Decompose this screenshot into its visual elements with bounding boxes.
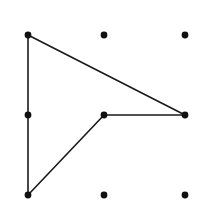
dot-top-right [182, 32, 189, 39]
figure-svg [0, 0, 205, 217]
dot-bottom-right [182, 192, 189, 199]
dot-top-left [25, 32, 32, 39]
dot-top-center [101, 32, 108, 39]
dot-middle-center [101, 112, 108, 119]
dot-grid-figure-canvas [0, 0, 205, 217]
dot-bottom-center [101, 192, 108, 199]
dot-middle-left [25, 112, 32, 119]
dot-bottom-left [25, 192, 32, 199]
dot-middle-right [182, 112, 189, 119]
